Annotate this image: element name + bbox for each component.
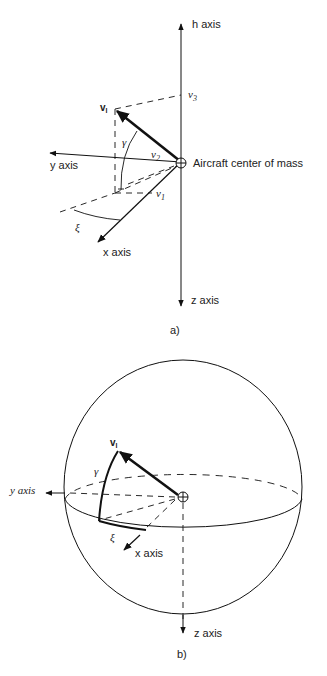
sphere-projection-dashes bbox=[70, 493, 183, 620]
v1-label: v1 bbox=[156, 187, 165, 202]
velocity-vector bbox=[120, 452, 178, 495]
xi-arc bbox=[74, 210, 120, 220]
figure-a: h axis v3 vl γ v2 Aircraft center of mas… bbox=[50, 18, 304, 336]
vector-label: vl bbox=[110, 437, 118, 449]
figure-b-caption: b) bbox=[177, 648, 187, 660]
v2-label: v2 bbox=[151, 148, 160, 163]
figure-a-caption: a) bbox=[170, 324, 180, 336]
vector-label: vl bbox=[100, 102, 108, 114]
y-axis-label: y axis bbox=[50, 159, 79, 171]
center-of-mass-icon bbox=[176, 158, 186, 168]
x-axis-label: x axis bbox=[103, 246, 132, 258]
gamma-arc bbox=[99, 451, 118, 521]
velocity-vector bbox=[117, 111, 180, 161]
x-axis-line bbox=[98, 162, 181, 242]
xi-label: ξ bbox=[110, 531, 115, 544]
v3-label: v3 bbox=[188, 88, 197, 103]
z-axis-label: z axis bbox=[194, 627, 223, 639]
figure-b: vl γ y axis ξ x axis z axis b) bbox=[9, 360, 302, 660]
diagram-canvas: h axis v3 vl γ v2 Aircraft center of mas… bbox=[0, 0, 327, 676]
sphere-outline bbox=[64, 360, 302, 614]
z-axis-label: z axis bbox=[191, 294, 220, 306]
gamma-label: γ bbox=[122, 136, 127, 148]
center-of-mass-label: Aircraft center of mass bbox=[193, 157, 304, 169]
x-axis-label: x axis bbox=[135, 547, 164, 559]
gamma-label: γ bbox=[94, 465, 99, 477]
y-axis-label: y axis bbox=[9, 484, 35, 496]
xi-label: ξ bbox=[75, 221, 80, 234]
center-of-mass-icon bbox=[178, 492, 188, 502]
h-axis-label: h axis bbox=[192, 18, 221, 30]
